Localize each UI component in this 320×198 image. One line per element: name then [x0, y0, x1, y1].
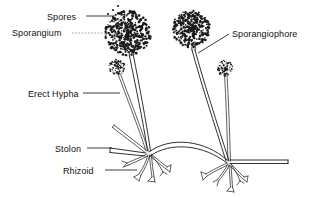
- free-spore-2: [107, 13, 109, 15]
- label-rhizoid: Rhizoid: [63, 166, 94, 176]
- small-left-sporangium: [109, 59, 126, 75]
- large-right-sporangium: [172, 10, 211, 48]
- erect-hypha-right-short: [225, 75, 231, 161]
- small-right-cSporangium: [217, 60, 233, 77]
- rhizoid-cluster-right: [201, 163, 248, 192]
- sporangiophore-stalk-left-tall: [129, 50, 150, 152]
- sporangiophore-stalk-right-tall: [192, 44, 229, 162]
- leader-line-sporangiophore: [198, 34, 229, 53]
- free-spore-3: [121, 11, 123, 13]
- label-spores: Spores: [47, 12, 76, 22]
- label-sporangiophore: Sporangiophore: [232, 29, 297, 39]
- large-left-sporangium: [104, 10, 151, 56]
- label-stolon: Stolon: [55, 144, 81, 154]
- free-spore-1: [117, 5, 119, 7]
- stolon-stub-right: [230, 160, 288, 164]
- rhizopus-diagram-figure: .ink{stroke:#1a1a1a;fill:none;stroke-wid…: [0, 0, 320, 198]
- free-spore-0: [112, 9, 114, 11]
- stolon-arc: [149, 142, 227, 163]
- label-erect-hypha: Erect Hypha: [28, 89, 79, 99]
- label-sporangium: Sporangium: [12, 28, 62, 38]
- rhizoid-cluster-left: [122, 154, 171, 182]
